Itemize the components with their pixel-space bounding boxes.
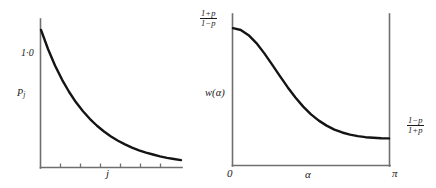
right-plot-svg [218, 0, 436, 188]
figure-canvas: 1·0 Pj j 1+p 1−p 1−p 1+p w(α) 0 α [0, 0, 436, 188]
right-ymax-frac: 1+p 1−p [200, 9, 217, 28]
right-ymin-frac: 1−p 1+p [407, 116, 424, 135]
left-y-axis-label-sub: j [23, 90, 25, 99]
right-ymax-fraction: 1+p 1−p [200, 9, 217, 29]
left-plot-svg [0, 0, 218, 188]
left-x-axis-label: j [106, 168, 109, 179]
right-x-start-label: 0 [227, 168, 233, 179]
right-x-end-label: π [392, 168, 398, 179]
right-ymax-denominator: 1−p [200, 18, 217, 28]
right-x-mid-label: α [305, 169, 311, 180]
right-spectral-curve [233, 28, 389, 138]
right-ymin-numerator: 1−p [407, 116, 424, 125]
right-ymin-denominator: 1+p [407, 125, 424, 135]
right-y-axis-label: w(α) [205, 88, 225, 99]
right-ymin-fraction: 1−p 1+p [407, 116, 424, 136]
right-ymax-numerator: 1+p [200, 9, 217, 18]
left-y-axis-label: Pj [17, 88, 25, 99]
left-plot-panel: 1·0 Pj j [0, 0, 218, 188]
right-plot-panel [218, 0, 436, 188]
left-decay-curve [41, 30, 181, 160]
left-ymax-value: 1·0 [21, 48, 34, 58]
